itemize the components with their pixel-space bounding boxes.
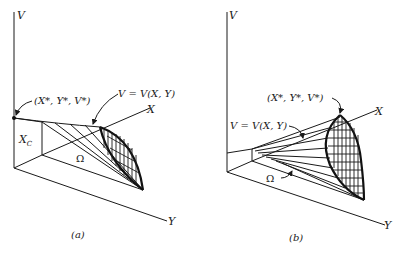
optimum-point-marker	[12, 116, 16, 120]
surface-top-curve	[14, 118, 100, 127]
optimum-point-label: (X*, Y*, V*)	[267, 92, 324, 103]
surface-label: V = V(X, Y)	[230, 120, 287, 131]
constraint-xc-label: XC	[18, 133, 33, 148]
optimum-leader-arrow	[332, 98, 341, 113]
panel-a: V X Y (X*, Y*, V*) V = V(X, Y) Ω XC (a)	[12, 9, 177, 240]
optimal-region-hatched	[100, 127, 143, 190]
box-bottom-edge	[227, 161, 252, 172]
caption-a: (a)	[71, 229, 85, 240]
figure-canvas: V X Y (X*, Y*, V*) V = V(X, Y) Ω XC (a)	[0, 0, 398, 261]
box-bottom-edge	[14, 155, 42, 168]
region-omega-label: Ω	[76, 153, 84, 164]
caption-b: (b)	[289, 232, 303, 243]
optimal-region-hatched	[326, 115, 364, 200]
y-axis-label: Y	[168, 215, 177, 228]
y-axis	[14, 168, 167, 221]
region-omega-label: Ω	[266, 173, 274, 184]
surface-line	[55, 123, 143, 190]
x-axis-label: X	[374, 105, 384, 118]
surface-label: V = V(X, Y)	[118, 88, 175, 99]
surface-leader-arrow	[93, 94, 118, 124]
optimum-leader-arrow	[16, 101, 32, 115]
v-axis-label: V	[17, 9, 26, 22]
v-axis-label: V	[229, 9, 238, 22]
panel-b: V X Y (X*, Y*, V*) V = V(X, Y) Ω (b)	[227, 9, 393, 243]
x-axis-label: X	[146, 103, 156, 116]
y-axis-label: Y	[384, 219, 393, 232]
box-top-edge	[227, 149, 252, 153]
surface-leader-arrow	[289, 126, 303, 138]
optimum-point-label: (X*, Y*, V*)	[34, 95, 91, 106]
